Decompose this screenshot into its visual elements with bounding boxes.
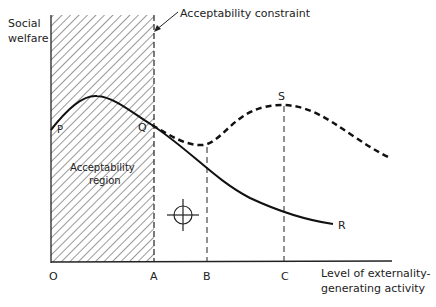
point-r-label: R (338, 219, 346, 232)
point-p-label: P (57, 123, 63, 136)
tick-c-label: C (281, 270, 289, 283)
y-axis-label-line2: welfare (8, 32, 48, 45)
tick-a-label: A (150, 270, 158, 283)
y-axis-label-line1: Social (8, 17, 41, 30)
arrow-head-icon (154, 25, 161, 32)
origin-label: O (49, 270, 58, 283)
region-label-line1: Acceptability (70, 161, 135, 174)
tick-b-label: B (203, 270, 211, 283)
acceptability-region (51, 15, 154, 262)
region-label-line2: region (89, 174, 121, 187)
x-axis-label-line1: Level of externality- (321, 267, 431, 280)
dashed-curve (152, 105, 388, 157)
diagram-canvas (0, 0, 436, 307)
x-axis-label-line2: generating activity (321, 282, 425, 295)
crosshair-icon (167, 199, 199, 231)
point-s-label: S (278, 90, 285, 103)
point-q-label: Q (138, 121, 147, 134)
arrow-line (156, 12, 178, 30)
constraint-label: Acceptability constraint (180, 7, 310, 20)
